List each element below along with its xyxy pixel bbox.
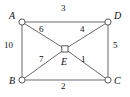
edge-D-E	[65, 22, 108, 49]
edge-weight-D-C: 5	[113, 41, 118, 50]
vertex-node-E[interactable]	[62, 46, 68, 52]
weighted-graph-figure: A D B C E 3 10 2 5 6 4 7 1	[0, 0, 130, 97]
edge-weight-A-B: 10	[4, 41, 13, 50]
vertex-label-D: D	[114, 11, 121, 21]
vertex-node-C[interactable]	[105, 77, 111, 83]
edge-weight-A-E: 6	[39, 25, 44, 34]
edge-C-E	[65, 49, 108, 80]
vertex-label-B: B	[9, 76, 15, 86]
vertex-label-C: C	[114, 76, 121, 86]
vertex-node-A[interactable]	[19, 19, 25, 25]
vertex-node-B[interactable]	[19, 77, 25, 83]
edge-weight-C-E: 1	[81, 55, 86, 64]
edge-weight-A-D: 3	[61, 4, 66, 13]
vertex-label-E: E	[61, 57, 67, 67]
vertex-label-A: A	[9, 11, 15, 21]
edge-weight-D-E: 4	[80, 25, 85, 34]
vertex-node-D[interactable]	[105, 19, 111, 25]
edge-weight-B-E: 7	[39, 55, 44, 64]
edge-weight-B-C: 2	[61, 82, 66, 91]
